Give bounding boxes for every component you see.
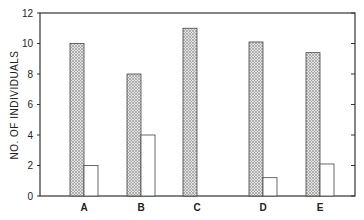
x-category-label: D <box>259 202 266 213</box>
y-axis-label: NO. OF INDIVIDUALS <box>9 50 20 159</box>
bar-open <box>84 166 98 197</box>
bar-stippled <box>249 42 263 196</box>
y-tick-label: 2 <box>27 160 33 171</box>
bar-stippled <box>127 74 141 196</box>
x-category-label: B <box>137 202 144 213</box>
bar-stippled <box>306 53 320 196</box>
y-tick-label: 12 <box>22 8 34 19</box>
x-category-label: E <box>317 202 324 213</box>
bar-chart: 024681012ABCDE NO. OF INDIVIDUALS <box>0 0 364 220</box>
x-category-label: C <box>193 202 200 213</box>
bar-open <box>320 164 334 196</box>
plot-area: 024681012ABCDE <box>22 8 355 214</box>
y-tick-label: 6 <box>27 99 33 110</box>
y-tick-label: 8 <box>27 69 33 80</box>
y-tick-label: 10 <box>22 38 34 49</box>
bar-stippled <box>183 28 197 196</box>
y-tick-label: 0 <box>27 191 33 202</box>
bar-open <box>141 135 155 196</box>
x-category-label: A <box>80 202 87 213</box>
bar-open <box>263 178 277 196</box>
bar-stippled <box>70 44 84 197</box>
y-tick-label: 4 <box>27 130 33 141</box>
